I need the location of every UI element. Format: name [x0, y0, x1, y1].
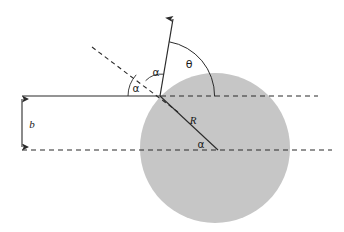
alpha-reflection-label: α: [153, 66, 160, 78]
surface-normal-dashed: [92, 47, 178, 112]
impact-parameter-label: b: [29, 118, 35, 130]
scattering-diagram-container: b R θ α α α: [0, 0, 344, 232]
outgoing-scattered-ray: [160, 19, 173, 96]
radius-label: R: [189, 114, 197, 126]
alpha-incidence-label: α: [133, 82, 140, 94]
alpha-center-label: α: [198, 138, 205, 150]
scattering-geometry-figure: b R θ α α α: [0, 0, 344, 232]
theta-angle-label: θ: [186, 58, 193, 71]
